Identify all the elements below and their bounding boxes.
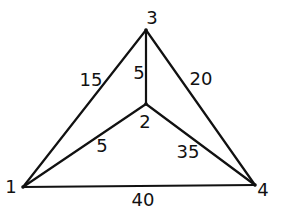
edge-1-3 bbox=[23, 30, 146, 187]
node-4-vertex bbox=[253, 183, 257, 187]
node-label-4: 4 bbox=[257, 179, 268, 200]
node-1-vertex bbox=[21, 185, 25, 189]
edge-weight-3-4: 20 bbox=[190, 68, 213, 89]
graph-diagram: 1552053540 1234 bbox=[0, 0, 282, 224]
edge-1-2 bbox=[23, 104, 146, 187]
edge-2-4 bbox=[146, 104, 255, 185]
edge-weight-1-4: 40 bbox=[132, 189, 155, 210]
node-label-2: 2 bbox=[139, 111, 150, 132]
node-3-vertex bbox=[144, 28, 148, 32]
edges-group bbox=[23, 30, 255, 187]
edge-3-4 bbox=[146, 30, 255, 185]
node-2-vertex bbox=[144, 102, 148, 106]
edge-1-4 bbox=[23, 185, 255, 187]
node-label-1: 1 bbox=[5, 176, 16, 197]
node-label-3: 3 bbox=[146, 7, 157, 28]
edge-weight-1-3: 15 bbox=[80, 69, 103, 90]
edge-weight-2-4: 35 bbox=[177, 141, 200, 162]
graph-svg: 1552053540 1234 bbox=[0, 0, 282, 224]
edge-weight-2-3: 5 bbox=[133, 62, 144, 83]
edge-weight-1-2: 5 bbox=[96, 135, 107, 156]
